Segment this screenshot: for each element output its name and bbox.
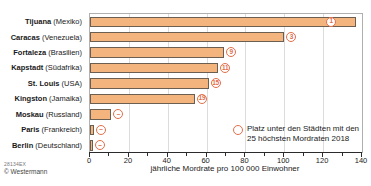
rank-badge: 15 <box>211 78 221 88</box>
bar <box>90 63 218 74</box>
bar <box>90 47 224 58</box>
category-label: Kingston (Jamaika) <box>0 91 82 106</box>
atlas-bar-chart: 139111519––– Tijuana (Mexiko)Caracas (Ve… <box>0 0 371 186</box>
category-label: Kapstadt (Südafrika) <box>0 60 82 75</box>
category-label: Fortaleza (Brasilien) <box>0 45 82 60</box>
axis-tick <box>303 153 304 156</box>
x-axis-title: jährliche Mordrate pro 100 000 Einwohner <box>89 164 361 173</box>
bar <box>90 94 195 105</box>
category-labels: Tijuana (Mexiko)Caracas (Venezuela)Forta… <box>0 14 85 153</box>
bar <box>90 17 356 28</box>
axis-tick <box>225 153 226 156</box>
rank-badge: 9 <box>226 47 236 57</box>
category-label: St. Louis (USA) <box>0 76 82 91</box>
category-label: Caracas (Venezuela) <box>0 29 82 44</box>
bar <box>90 32 284 43</box>
rank-badge: – <box>113 109 123 119</box>
category-label: Berlin (Deutschland) <box>0 138 82 153</box>
axis-tick <box>342 153 343 156</box>
legend-line-2: 25 höchsten Mordraten 2018 <box>247 134 359 144</box>
bar <box>90 140 93 151</box>
rank-badge: 1 <box>326 17 336 27</box>
rank-badge: – <box>95 140 105 150</box>
legend-text: Platz unter den Städten mit den 25 höchs… <box>247 124 359 143</box>
axis-tick <box>108 153 109 156</box>
rank-badge: – <box>96 125 106 135</box>
rank-badge: 11 <box>220 63 230 73</box>
legend-line-1: Platz unter den Städten mit den <box>247 124 359 134</box>
axis-tick <box>147 153 148 156</box>
axis-tick <box>186 153 187 156</box>
rank-badge: 3 <box>286 32 296 42</box>
rank-circle-icon <box>233 125 243 135</box>
bar <box>90 125 94 136</box>
category-label: Moskau (Russland) <box>0 107 82 122</box>
bar <box>90 109 111 120</box>
axis-tick <box>264 153 265 156</box>
rank-badge: 19 <box>197 94 207 104</box>
category-label: Paris (Frankreich) <box>0 122 82 137</box>
category-label: Tijuana (Mexiko) <box>0 14 82 29</box>
legend: Platz unter den Städten mit den 25 höchs… <box>233 124 359 143</box>
bar <box>90 78 209 89</box>
figure-code: 28134EX <box>4 161 26 167</box>
copyright: © Westermann <box>4 168 47 175</box>
